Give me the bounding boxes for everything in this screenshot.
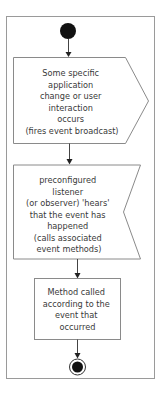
edge-send-signal-to-accept-event xyxy=(67,144,73,165)
accept-event-line: (calls associated xyxy=(34,233,102,243)
send-signal-line: Some specific xyxy=(42,68,99,78)
action-line: occurred xyxy=(60,322,96,332)
accept-event-line: preconfigured xyxy=(39,175,96,185)
accept-event-line: event methods) xyxy=(36,244,101,254)
accept-event-line: that the event has xyxy=(30,210,106,220)
accept-event-node: preconfigured listener (or observer) 'he… xyxy=(14,165,141,259)
send-signal-line: (fires event broadcast) xyxy=(25,126,118,136)
action-node: Method called according to the event tha… xyxy=(35,279,121,340)
initial-node-icon xyxy=(60,23,76,39)
action-line: according to the xyxy=(43,299,110,309)
accept-event-line: happened xyxy=(47,221,88,231)
send-signal-line: application xyxy=(48,80,93,90)
send-signal-line: change or user xyxy=(40,91,102,101)
action-line: Method called xyxy=(47,287,105,297)
accept-event-line: (or observer) 'hears' xyxy=(26,198,109,208)
action-line: event that xyxy=(55,310,98,320)
send-signal-line: occurs xyxy=(57,114,84,124)
send-signal-node: Some specific application change or user… xyxy=(14,58,149,144)
edge-start-to-send-signal xyxy=(66,39,72,57)
activity-diagram: Some specific application change or user… xyxy=(0,0,163,395)
edge-action-to-end xyxy=(75,340,81,359)
final-node-icon xyxy=(70,359,86,375)
accept-event-line: listener xyxy=(52,187,83,197)
edge-accept-event-to-action xyxy=(75,259,81,279)
send-signal-line: interaction xyxy=(49,103,93,113)
